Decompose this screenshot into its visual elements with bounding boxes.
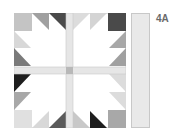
cornerstone xyxy=(66,67,73,74)
diagram-label: 4A xyxy=(156,13,169,24)
quilt-block-svg xyxy=(14,13,126,128)
quilt-block-diagram xyxy=(14,13,126,128)
border-strip xyxy=(131,13,150,128)
